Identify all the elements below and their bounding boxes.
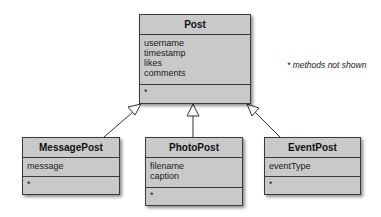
- inheritance-arrow-messagepost: [104, 104, 141, 137]
- attribute-likes: likes: [144, 58, 246, 68]
- class-post-title: Post: [140, 15, 250, 35]
- methods-note: * methods not shown: [287, 60, 366, 70]
- attribute-timestamp: timestamp: [144, 48, 246, 58]
- class-photopost: PhotoPost filename caption *: [145, 137, 243, 206]
- class-post: Post username timestamp likes comments *: [139, 14, 251, 104]
- class-eventpost-title: EventPost: [265, 138, 360, 158]
- attribute-message: message: [27, 161, 115, 171]
- class-eventpost: EventPost eventType *: [264, 137, 361, 195]
- inheritance-arrow-eventpost: [247, 104, 280, 137]
- attribute-eventtype: eventType: [269, 161, 356, 171]
- class-post-attributes: username timestamp likes comments: [140, 35, 250, 85]
- attribute-username: username: [144, 38, 246, 48]
- class-eventpost-methods: *: [265, 177, 360, 191]
- class-post-methods: *: [140, 85, 250, 99]
- class-messagepost-title: MessagePost: [23, 138, 119, 158]
- inheritance-arrow-photopost: [187, 104, 199, 137]
- class-eventpost-attributes: eventType: [265, 158, 360, 177]
- class-photopost-methods: *: [146, 188, 242, 202]
- attribute-filename: filename: [150, 161, 238, 171]
- attribute-comments: comments: [144, 68, 246, 78]
- class-messagepost-attributes: message: [23, 158, 119, 177]
- class-messagepost-methods: *: [23, 177, 119, 191]
- class-photopost-title: PhotoPost: [146, 138, 242, 158]
- attribute-caption: caption: [150, 171, 238, 181]
- class-messagepost: MessagePost message *: [22, 137, 120, 195]
- class-photopost-attributes: filename caption: [146, 158, 242, 188]
